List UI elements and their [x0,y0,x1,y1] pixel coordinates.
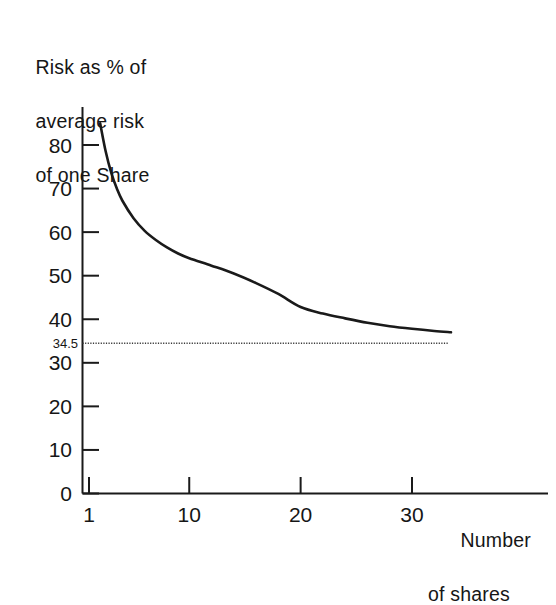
annotations-group: 34.5 [53,336,448,351]
y-tick-label: 0 [60,482,72,505]
x-axis-title-line-2: of shares [428,581,531,605]
x-tick-label: 10 [178,503,201,526]
x-tick-label: 20 [289,503,312,526]
y-tick-label: 10 [49,438,72,461]
y-axis-title-line-2: average risk [35,110,144,132]
y-axis-title: Risk as % of average risk of one Share [13,27,150,216]
risk-curve [100,123,451,332]
x-ticks-group: 1102030 [83,477,424,526]
asymptote-value-label: 34.5 [53,336,78,351]
y-tick-label: 20 [49,395,72,418]
y-tick-label: 40 [49,308,72,331]
y-tick-label: 60 [49,221,72,244]
y-tick-label: 30 [49,351,72,374]
x-tick-label: 30 [400,503,423,526]
x-tick-label: 1 [83,503,95,526]
data-series-group [100,123,451,332]
y-axis-title-line-1: Risk as % of [35,56,146,78]
y-tick-label: 50 [49,264,72,287]
x-axis-title: Number of shares [438,500,531,605]
x-axis-title-line-1: Number [460,529,531,551]
y-axis-title-line-3: of one Share [35,164,149,186]
axes-group [83,107,549,494]
